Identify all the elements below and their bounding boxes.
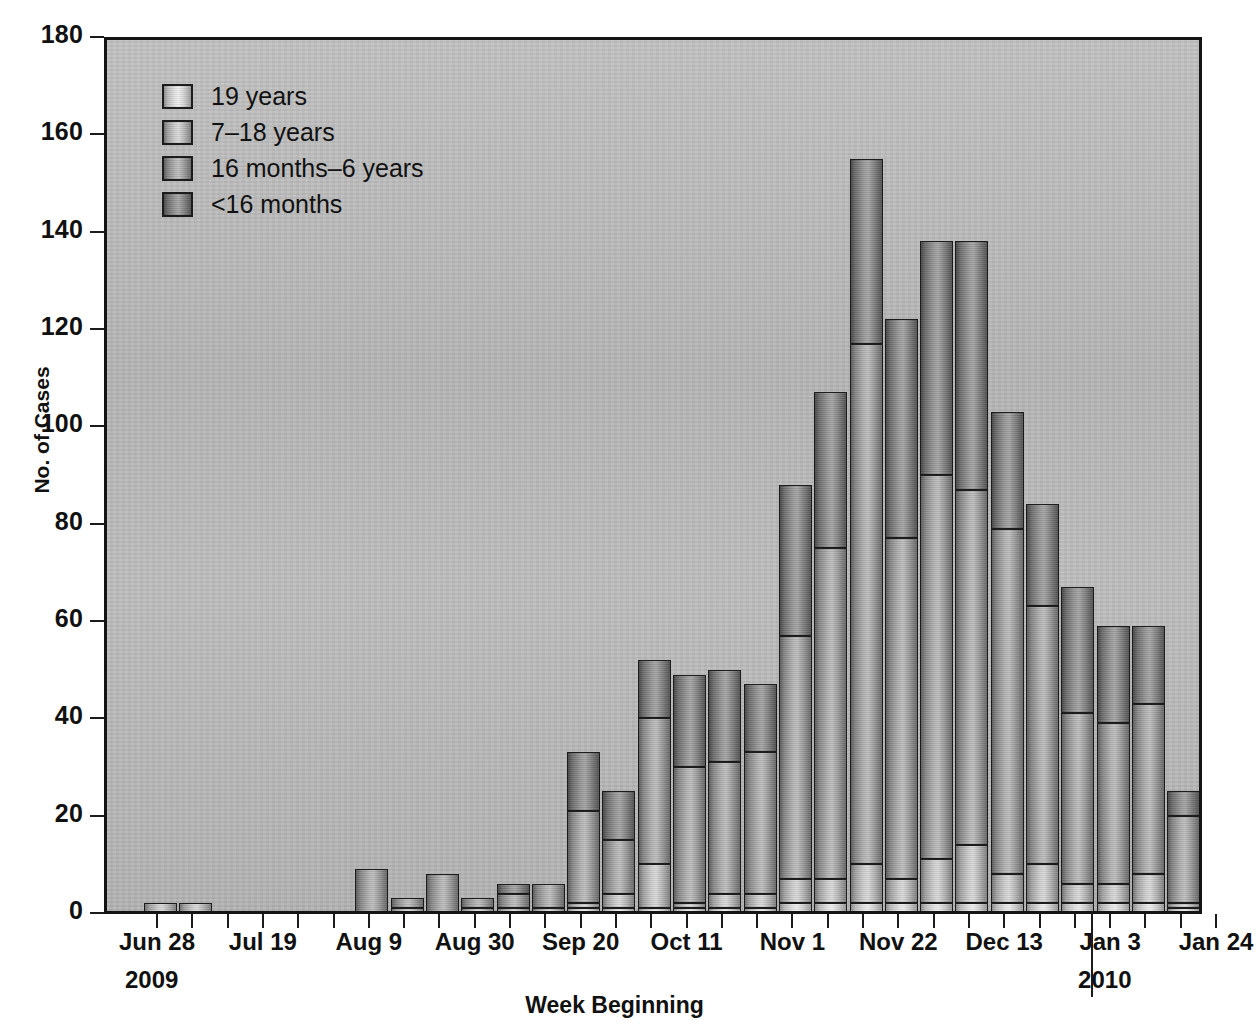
bar-segment	[602, 791, 635, 840]
bar-segment-texture	[886, 539, 917, 878]
bar-segment	[814, 548, 847, 879]
legend-item: 16 months–6 years	[162, 150, 424, 186]
bar-segment-texture	[568, 812, 599, 902]
bar	[885, 319, 918, 913]
bar-segment-texture	[1098, 885, 1129, 902]
bar-segment-texture	[498, 895, 529, 908]
bar-segment	[1061, 884, 1094, 903]
y-axis-tick	[90, 815, 104, 817]
bar-segment	[497, 884, 530, 894]
bar-segment-texture	[709, 671, 740, 761]
x-axis-tick	[897, 914, 899, 928]
bar-segment-texture	[780, 486, 811, 635]
bar	[567, 752, 600, 913]
bar-segment	[426, 874, 459, 913]
bar-segment-texture	[603, 895, 634, 908]
bar-segment-texture	[956, 846, 987, 902]
bar-segment-texture	[956, 242, 987, 488]
bar-segment-texture	[356, 870, 387, 912]
bar-segment-texture	[674, 904, 705, 907]
bar	[1061, 587, 1094, 913]
bar-segment	[744, 684, 777, 752]
x-axis-tick	[756, 914, 758, 928]
bar-segment-texture	[815, 549, 846, 878]
y-axis-tick	[90, 328, 104, 330]
bar	[1132, 626, 1165, 913]
x-axis-tick	[968, 914, 970, 928]
bar	[355, 869, 388, 913]
bar-segment	[461, 898, 494, 908]
bar-segment	[1061, 713, 1094, 883]
y-axis-tick	[90, 523, 104, 525]
bar-segment-texture	[851, 865, 882, 902]
x-axis-tick	[509, 914, 511, 928]
y-axis-tick	[90, 717, 104, 719]
x-axis-tick	[1039, 914, 1041, 928]
bar-segment-texture	[851, 160, 882, 343]
bar-segment	[567, 752, 600, 810]
bar	[955, 241, 988, 913]
y-axis-tick-label: 20	[0, 799, 83, 828]
bar-segment-texture	[1133, 705, 1164, 873]
x-axis-tick	[368, 914, 370, 928]
x-axis-tick	[686, 914, 688, 928]
bar-segment	[991, 412, 1024, 529]
bar	[673, 675, 706, 913]
year-label: 2009	[125, 966, 178, 994]
bar-segment-texture	[603, 792, 634, 839]
legend-swatch-under-16-months	[162, 192, 193, 217]
x-axis-tick	[1144, 914, 1146, 928]
bar-segment-texture	[568, 904, 599, 907]
bar-segment	[638, 718, 671, 864]
bar-segment-texture	[921, 476, 952, 858]
bar-segment	[1167, 816, 1200, 904]
legend-swatch-texture	[164, 86, 191, 107]
x-axis-tick	[827, 914, 829, 928]
bar-segment-texture	[780, 880, 811, 902]
chart-legend: 19 years7–18 years16 months–6 years<16 m…	[162, 78, 424, 222]
bar-segment	[1026, 504, 1059, 606]
bar	[532, 884, 565, 913]
bar-segment-texture	[745, 685, 776, 751]
x-axis-tick	[544, 914, 546, 928]
x-axis-tick	[1003, 914, 1005, 928]
legend-item: 7–18 years	[162, 114, 424, 150]
x-axis-line	[104, 911, 1202, 914]
bar-segment	[920, 859, 953, 903]
x-axis-tick	[156, 914, 158, 928]
bar-segment-texture	[462, 899, 493, 907]
bar-segment	[991, 874, 1024, 903]
year-label: 2010	[1078, 966, 1131, 994]
legend-swatch-texture	[164, 122, 191, 143]
bar-segment	[814, 879, 847, 903]
legend-item-label: 16 months–6 years	[211, 154, 424, 183]
bar-segment-texture	[639, 661, 670, 717]
x-axis-tick	[474, 914, 476, 928]
y-axis-tick-label: 40	[0, 701, 83, 730]
bar-segment-texture	[1098, 627, 1129, 722]
x-axis-tick	[403, 914, 405, 928]
bar-segment-texture	[815, 880, 846, 902]
bar-segment	[638, 864, 671, 908]
bar-segment-texture	[533, 885, 564, 907]
bar-segment-texture	[992, 875, 1023, 902]
bar-segment	[850, 159, 883, 344]
bar	[744, 684, 777, 913]
bar-segment-texture	[674, 676, 705, 766]
bar-segment	[391, 898, 424, 908]
bar-segment-texture	[992, 413, 1023, 528]
bar-segment	[955, 845, 988, 903]
bar-segment-texture	[1133, 875, 1164, 902]
x-axis-tick	[650, 914, 652, 928]
x-axis-tick	[791, 914, 793, 928]
x-axis-tick	[721, 914, 723, 928]
y-axis-tick-label: 60	[0, 604, 83, 633]
x-axis-tick	[933, 914, 935, 928]
bar-segment-texture	[709, 763, 740, 892]
legend-swatch-texture	[164, 194, 191, 215]
y-axis-tick-label: 180	[0, 20, 83, 49]
bar-segment-texture	[815, 393, 846, 547]
bar-segment	[779, 485, 812, 636]
bar-segment	[497, 894, 530, 909]
x-axis-tick	[333, 914, 335, 928]
